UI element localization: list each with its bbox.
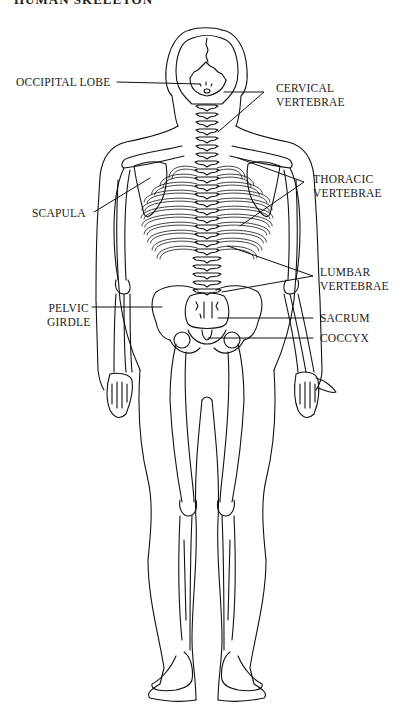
lambdoid-suture — [190, 62, 226, 80]
label-occipital-lobe: OCCIPITAL LOBE — [16, 75, 110, 89]
vertebra — [195, 193, 219, 199]
left-ilium — [152, 286, 198, 340]
vertebra — [195, 209, 219, 215]
left-elbow — [115, 280, 130, 294]
pelvis — [152, 286, 262, 353]
label-text: LUMBAR — [320, 265, 389, 279]
vertebra — [195, 217, 219, 223]
skeleton-figure — [0, 0, 413, 709]
leader-scapula — [94, 178, 150, 212]
label-sacrum: SACRUM — [320, 311, 370, 325]
vertebra — [195, 161, 219, 167]
sacrum — [185, 293, 229, 329]
head-outline-right — [222, 30, 247, 126]
leader-occipital — [117, 82, 200, 84]
vertebra — [193, 281, 221, 287]
right-acetabulum — [224, 332, 240, 348]
label-thoracic-vertebrae: THORACIC VERTEBRAE — [313, 172, 382, 200]
label-text: SACRUM — [320, 311, 370, 325]
vertebra — [195, 201, 219, 207]
left-rib — [157, 246, 197, 259]
label-text: THORACIC — [313, 172, 382, 186]
vertebra — [196, 105, 218, 111]
vertebra — [195, 233, 219, 239]
right-scapula — [247, 162, 280, 217]
vertebra — [195, 225, 219, 231]
label-text: GIRDLE — [47, 315, 90, 329]
diagram-page: HUMAN SKELETON — [0, 0, 413, 709]
vertebra — [195, 185, 219, 191]
left-forearm — [114, 294, 132, 372]
right-femur — [220, 344, 244, 502]
vertebra — [195, 169, 219, 175]
label-text: SCAPULA — [32, 206, 86, 220]
right-leg-inner — [212, 400, 222, 700]
left-hand — [107, 373, 133, 417]
vertebra — [196, 153, 218, 159]
label-pelvic-girdle: PELVIC GIRDLE — [47, 301, 90, 329]
left-fibula — [184, 540, 186, 620]
label-text: CERVICAL — [276, 81, 345, 95]
label-cervical-vertebrae: CERVICAL VERTEBRAE — [276, 81, 345, 109]
vertebra — [196, 121, 218, 127]
vertebra — [195, 249, 219, 255]
left-leg-outer — [139, 370, 196, 701]
vertebra — [195, 177, 219, 183]
crotch — [202, 397, 212, 400]
right-elbow — [284, 280, 299, 294]
label-text: VERTEBRAE — [320, 279, 389, 293]
vertebra — [196, 137, 218, 143]
right-leg-outer — [218, 370, 275, 701]
right-fibula — [228, 540, 230, 620]
left-clavicle — [122, 146, 184, 168]
label-text: OCCIPITAL LOBE — [16, 75, 110, 89]
vertebra — [196, 145, 218, 151]
left-femur — [170, 344, 194, 502]
ribcage — [141, 166, 273, 259]
left-acetabulum — [174, 332, 190, 348]
vertebra — [195, 241, 219, 247]
left-torso-side — [117, 180, 140, 370]
label-text: COCCYX — [320, 331, 369, 345]
label-text: VERTEBRAE — [276, 95, 345, 109]
label-scapula: SCAPULA — [32, 206, 86, 220]
ischium — [170, 340, 244, 353]
vertebra — [193, 273, 221, 279]
right-ilium — [216, 286, 262, 340]
head-top — [190, 28, 222, 30]
head-outline — [166, 30, 190, 126]
label-text: PELVIC — [47, 301, 90, 315]
vertebra — [193, 265, 221, 271]
right-forearm — [284, 294, 314, 372]
label-coccyx: COCCYX — [320, 331, 369, 345]
left-leg-inner — [192, 400, 202, 700]
vertebra — [193, 257, 221, 263]
label-lumbar-vertebrae: LUMBAR VERTEBRAE — [320, 265, 389, 293]
vertebra — [196, 129, 218, 135]
shoulder-girdle — [122, 146, 292, 217]
right-clavicle — [230, 146, 292, 168]
sagittal-suture — [206, 38, 208, 62]
leg-bones — [152, 344, 262, 691]
skull — [176, 36, 238, 105]
label-text: VERTEBRAE — [313, 186, 382, 200]
right-rib — [217, 246, 257, 259]
vertebra — [196, 113, 218, 119]
left-scapula — [134, 162, 167, 217]
